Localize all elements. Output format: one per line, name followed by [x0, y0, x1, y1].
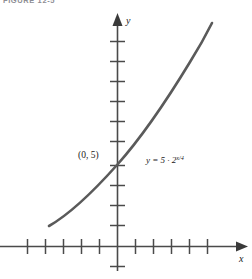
x-axis-arrowhead: [236, 242, 248, 252]
exponential-curve: [49, 23, 212, 226]
exponential-graph: y x (0, 5) y = 5 · 2x/4: [0, 0, 252, 279]
x-axis-label: x: [238, 253, 244, 264]
equation-base: y = 5 · 2: [145, 155, 177, 165]
intercept-point-label: (0, 5): [78, 150, 99, 161]
equation-label: y = 5 · 2x/4: [145, 154, 184, 166]
y-axis-arrowhead: [113, 13, 123, 26]
equation-exponent: x/4: [175, 154, 184, 161]
figure-container: FIGURE 12-5: [0, 0, 252, 279]
y-axis-label: y: [125, 15, 131, 26]
